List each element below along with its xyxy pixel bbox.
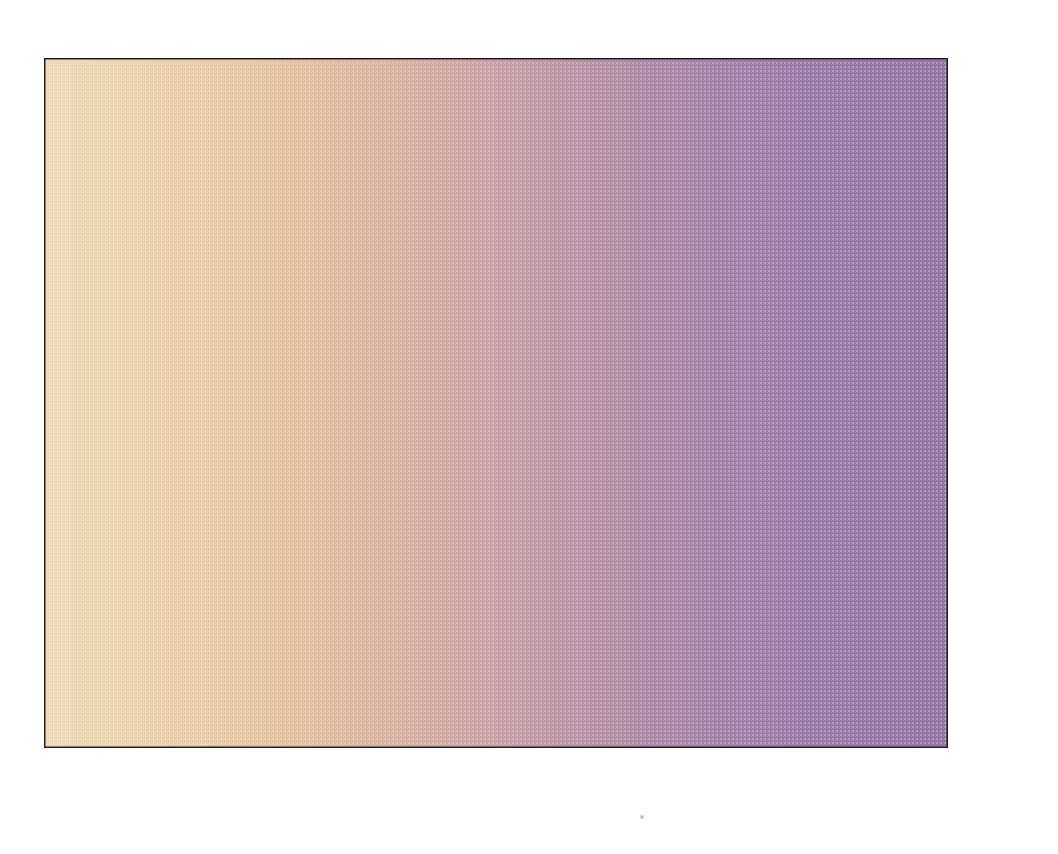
chart-container <box>0 0 1058 854</box>
plot-border <box>45 59 948 748</box>
plot-area <box>44 58 948 748</box>
plot-svg-overlay <box>44 58 948 748</box>
page-speck <box>640 815 644 819</box>
